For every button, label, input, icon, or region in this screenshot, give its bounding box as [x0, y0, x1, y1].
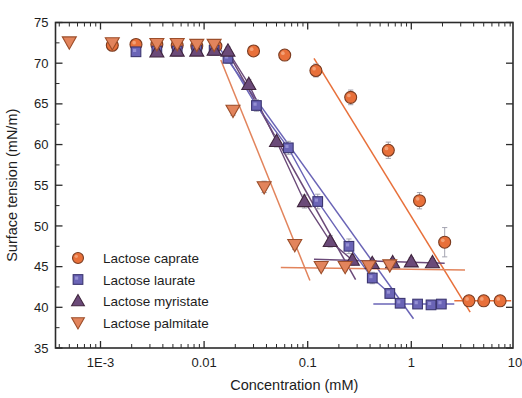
x-tick-label: 0.1: [299, 355, 317, 370]
data-point: [226, 105, 240, 117]
data-point: [345, 91, 357, 103]
data-point: [248, 45, 260, 57]
y-tick-label: 55: [34, 178, 48, 193]
data-point: [404, 255, 418, 267]
legend-marker: [73, 253, 84, 264]
x-tick-label: 0.01: [191, 355, 216, 370]
y-tick-label: 45: [34, 259, 48, 274]
y-tick-label: 60: [34, 137, 48, 152]
x-tick-label: 1: [408, 355, 415, 370]
x-tick-label: 1E-3: [87, 355, 114, 370]
data-point: [414, 195, 426, 207]
y-tick-label: 35: [34, 341, 48, 356]
surface-tension-plot: 3540455055606570751E-30.010.1110Concentr…: [0, 0, 522, 398]
y-tick-label: 75: [34, 15, 48, 30]
legend-label: Lactose caprate: [103, 251, 199, 266]
data-marker-group: [62, 37, 506, 310]
data-point: [62, 37, 76, 49]
y-axis-title: Surface tension (mN/m): [4, 109, 20, 262]
chart-figure: 3540455055606570751E-30.010.1110Concentr…: [0, 0, 522, 398]
fit-line: [314, 259, 445, 263]
y-tick-label: 50: [34, 219, 48, 234]
data-point: [221, 44, 235, 56]
data-point: [288, 240, 302, 252]
y-tick-label: 65: [34, 96, 48, 111]
legend-marker: [72, 318, 85, 329]
data-point: [463, 295, 475, 307]
data-point: [310, 65, 322, 77]
legend-label: Lactose palmitate: [103, 316, 209, 331]
data-point: [439, 236, 451, 248]
data-point: [494, 295, 506, 307]
x-axis-title: Concentration (mM): [230, 377, 358, 393]
legend-marker: [72, 294, 85, 305]
axis-label-group: 3540455055606570751E-30.010.1110Concentr…: [4, 15, 522, 393]
data-point: [425, 255, 439, 267]
data-point: [382, 144, 394, 156]
data-point: [270, 134, 284, 146]
y-tick-label: 40: [34, 300, 48, 315]
y-tick-label: 70: [34, 56, 48, 71]
data-point: [323, 234, 337, 246]
legend-label: Lactose laurate: [103, 273, 195, 288]
x-tick-label: 10: [508, 355, 522, 370]
legend-group: Lactose caprateLactose laurateLactose my…: [72, 251, 209, 331]
fit-line: [314, 58, 470, 312]
data-point: [257, 182, 271, 194]
data-point: [478, 295, 490, 307]
legend-label: Lactose myristate: [103, 294, 209, 309]
data-point: [279, 49, 291, 61]
